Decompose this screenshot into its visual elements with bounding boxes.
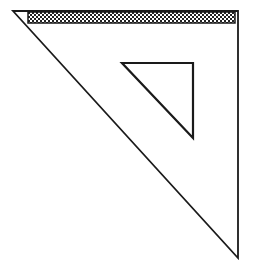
hatched-edge-bar [28,12,235,23]
set-square-diagram [0,0,256,277]
set-square-illustration [0,0,256,277]
outer-triangle [13,11,238,258]
